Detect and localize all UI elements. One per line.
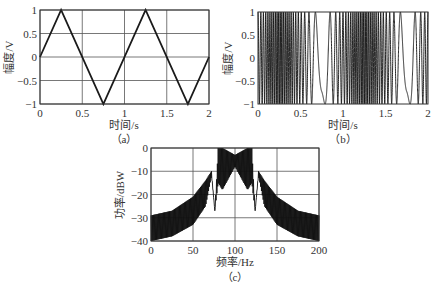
panel-b-x-ticks: 00.511.52 (255, 107, 431, 119)
y-tick-label: −1 (25, 98, 37, 110)
panel-a-caption: （a） (111, 133, 138, 145)
panel-b-fm-signal (258, 12, 428, 104)
x-tick-label: 1 (122, 107, 128, 119)
x-tick-label: 0 (148, 244, 154, 256)
panel-b-ylabel: 幅度/V (221, 41, 234, 74)
x-tick-label: 1.5 (160, 107, 174, 119)
panel-c-caption: （c） (222, 271, 249, 283)
panel-c-y-ticks: 0−10−20−30−40 (131, 142, 149, 247)
panel-b-y-ticks: 10.50−0.5−1 (235, 6, 255, 110)
panel-c: 0−10−20−30−40 050100150200 频率/Hz 功率/dBW … (113, 142, 328, 283)
y-tick-label: −40 (131, 235, 149, 247)
x-tick-label: 2 (425, 107, 431, 119)
panel-a-x-ticks: 00.511.52 (37, 107, 212, 119)
x-tick-label: 100 (227, 244, 244, 256)
panel-b-xlabel: 时间/s (328, 119, 357, 131)
x-tick-label: 50 (188, 244, 200, 256)
y-tick-label: −0.5 (17, 75, 37, 87)
panel-c-ylabel: 功率/dBW (113, 170, 126, 219)
y-tick-label: −20 (131, 189, 149, 201)
y-tick-label: −0.5 (235, 75, 255, 87)
y-tick-label: −10 (131, 165, 149, 177)
x-tick-label: 0 (255, 107, 261, 119)
x-tick-label: 0.5 (75, 107, 89, 119)
panel-a-ylabel: 幅度/V (2, 40, 15, 73)
y-tick-label: 1 (250, 6, 256, 18)
y-tick-label: 0 (250, 52, 256, 64)
x-tick-label: 0 (37, 107, 43, 119)
y-tick-label: 0.5 (23, 28, 37, 40)
x-tick-label: 1 (340, 107, 346, 119)
panel-b-caption: （b） (329, 133, 357, 145)
x-tick-label: 150 (269, 244, 286, 256)
panel-b: 10.50−0.5−1 00.511.52 时间/s 幅度/V （b） (221, 6, 431, 145)
y-tick-label: 0 (143, 142, 149, 154)
panel-a: 10.50−0.5−1 00.511.52 时间/s 幅度/V （a） (2, 4, 212, 145)
panel-a-xlabel: 时间/s (109, 119, 138, 131)
panel-a-y-ticks: 10.50−0.5−1 (17, 4, 37, 110)
y-tick-label: 1 (32, 4, 38, 16)
x-tick-label: 200 (311, 244, 328, 256)
y-tick-label: −1 (243, 98, 255, 110)
x-tick-label: 1.5 (379, 107, 393, 119)
y-tick-label: 0.5 (241, 29, 255, 41)
y-tick-label: −30 (131, 212, 149, 224)
figure: 10.50−0.5−1 00.511.52 时间/s 幅度/V （a） 10.5… (0, 0, 436, 288)
x-tick-label: 2 (206, 107, 212, 119)
panel-c-x-ticks: 050100150200 (148, 244, 328, 256)
x-tick-label: 0.5 (294, 107, 308, 119)
panel-c-xlabel: 频率/Hz (216, 255, 254, 268)
y-tick-label: 0 (32, 51, 38, 63)
